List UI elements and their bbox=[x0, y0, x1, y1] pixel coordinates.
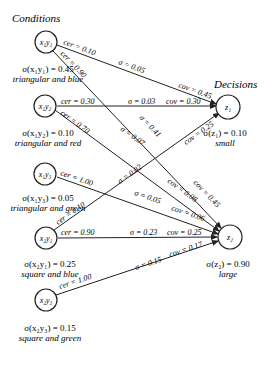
edge-label-sigma: σ = 0.05 bbox=[133, 188, 162, 205]
svg-text:x₁y₁: x₁y₁ bbox=[39, 38, 53, 47]
node-desc: large bbox=[219, 269, 238, 279]
node-sigma: σ(z₂) = 0.90 bbox=[206, 259, 250, 269]
edge-x2y1-z2 bbox=[58, 237, 217, 238]
svg-text:z₁: z₁ bbox=[224, 103, 231, 112]
edge-label-sigma: σ = 0.03 bbox=[128, 97, 155, 106]
node-sigma: σ(x₁y₁) = 0.45 bbox=[22, 64, 74, 74]
node-desc: square and green bbox=[19, 333, 82, 343]
node-sigma: σ(z₁) = 0.10 bbox=[203, 128, 247, 138]
svg-text:x₁y₃: x₁y₃ bbox=[38, 170, 52, 179]
svg-text:x₂y₁: x₂y₁ bbox=[39, 234, 53, 243]
node-desc: triangular and green bbox=[10, 203, 86, 213]
conditions-title: Conditions bbox=[12, 12, 60, 24]
edge-label-sigma: σ = 0.41 bbox=[138, 113, 163, 139]
edge-label-sigma: σ = 0.15 bbox=[134, 255, 163, 272]
node-desc: triangular and blue bbox=[13, 74, 84, 84]
svg-text:x₁y₂: x₁y₂ bbox=[38, 102, 52, 111]
node-sigma: σ(x₂y₁) = 0.25 bbox=[24, 259, 76, 269]
edge-label-cer: cer = 1.00 bbox=[59, 168, 94, 187]
edge-label-cov: cov = 0.17 bbox=[168, 239, 205, 259]
condition-node-x2y3: x₂y₃ σ(x₂y₃) = 0.15 square and green bbox=[19, 289, 82, 343]
edge-label-sigma: σ = 0.02 bbox=[116, 163, 144, 186]
edge-label-cov: cov = 0.25 bbox=[167, 228, 202, 237]
node-desc: triangular and red bbox=[15, 138, 82, 148]
edge-label-cov: cov = 0.30 bbox=[166, 97, 201, 106]
flow-graph: Conditions Decisions cer = 0.10 σ = 0.05… bbox=[0, 0, 268, 365]
node-desc: small bbox=[215, 138, 235, 148]
condition-node-x1y3: x₁y₃ σ(x₁y₃) = 0.05 triangular and green bbox=[10, 163, 86, 213]
edge-label-cov: cov = 0.08 bbox=[166, 176, 199, 204]
edge-label-cer: cer = 0.30 bbox=[61, 97, 95, 106]
edge-label-sigma: σ = 0.23 bbox=[130, 228, 157, 237]
svg-text:x₂y₃: x₂y₃ bbox=[39, 296, 53, 305]
node-sigma: σ(x₂y₃) = 0.15 bbox=[24, 323, 76, 333]
node-sigma: σ(x₁y₃) = 0.05 bbox=[22, 193, 74, 203]
node-desc: square and blue bbox=[21, 269, 79, 279]
svg-text:z₂: z₂ bbox=[226, 233, 233, 242]
decisions-title: Decisions bbox=[213, 78, 257, 90]
edge-label-sigma: σ = 0.07 bbox=[119, 124, 147, 148]
node-sigma: σ(x₁y₂) = 0.10 bbox=[22, 128, 74, 138]
decision-node-z2: z₂ σ(z₂) = 0.90 large bbox=[206, 225, 250, 279]
edge-label-cer: cer = 0.90 bbox=[61, 228, 95, 237]
